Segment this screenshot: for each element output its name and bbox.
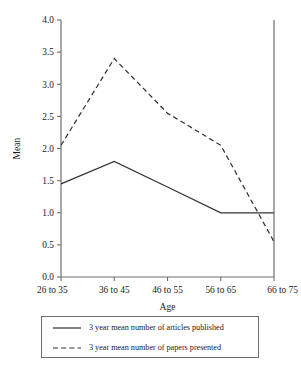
y-axis-title: Mean bbox=[11, 137, 22, 159]
series-line-articles bbox=[61, 161, 274, 212]
legend-label-papers: 3 year mean number of papers presented bbox=[89, 343, 221, 353]
y-axis-tick-label: 1.5 bbox=[42, 176, 54, 186]
axis-labels-group: 0.00.51.01.52.02.53.03.54.026 to 3536 to… bbox=[11, 15, 298, 312]
y-axis-tick-label: 0.5 bbox=[42, 240, 54, 250]
dashed-line-sample bbox=[52, 343, 82, 353]
x-axis-title: Age bbox=[160, 301, 176, 312]
legend-item-papers: 3 year mean number of papers presented bbox=[42, 338, 258, 358]
x-axis-tick-label: 46 to 55 bbox=[152, 285, 183, 295]
legend-item-articles: 3 year mean number of articles published bbox=[42, 318, 258, 338]
x-axis-tick-label: 36 to 45 bbox=[99, 285, 130, 295]
x-axis-tick-label: 26 to 35 bbox=[37, 285, 68, 295]
x-axis-tick-label: 66 to 75 bbox=[267, 285, 298, 295]
chart-legend: 3 year mean number of articles published… bbox=[41, 316, 259, 358]
y-axis-tick-label: 0.0 bbox=[42, 272, 54, 282]
y-axis-tick-label: 2.5 bbox=[42, 112, 54, 122]
line-chart-plot: 0.00.51.01.52.02.53.03.54.026 to 3536 to… bbox=[0, 0, 301, 369]
y-axis-tick-label: 4.0 bbox=[42, 15, 54, 25]
legend-label-articles: 3 year mean number of articles published bbox=[89, 323, 224, 333]
series-line-papers bbox=[61, 59, 274, 242]
x-axis-tick-label: 56 to 65 bbox=[205, 285, 236, 295]
y-axis-tick-label: 3.5 bbox=[42, 47, 54, 57]
y-axis-tick-label: 2.0 bbox=[42, 144, 54, 154]
y-axis-tick-label: 3.0 bbox=[42, 80, 54, 90]
solid-line-sample bbox=[52, 323, 82, 333]
y-axis-tick-label: 1.0 bbox=[42, 208, 54, 218]
series-group bbox=[61, 59, 274, 242]
axes-group bbox=[57, 20, 274, 281]
chart-figure: 0.00.51.01.52.02.53.03.54.026 to 3536 to… bbox=[0, 0, 301, 369]
